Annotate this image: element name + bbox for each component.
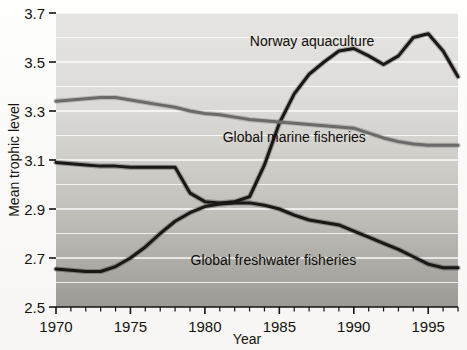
series-label-2: Global marine fisheries <box>223 129 366 145</box>
y-tick-label: 2.7 <box>24 250 45 267</box>
y-tick-label: 2.9 <box>24 201 45 218</box>
x-axis-title: Year <box>233 331 262 347</box>
y-tick-label: 3.1 <box>24 152 45 169</box>
x-tick-label: 1995 <box>412 318 445 335</box>
series-label-1: Norway aquaculture <box>250 33 375 49</box>
mean-trophic-level-line-chart: 2.52.72.93.13.33.53.7 197019751980198519… <box>0 0 467 350</box>
x-tick-label: 1980 <box>188 318 221 335</box>
y-tick-label: 3.5 <box>24 54 45 71</box>
x-tick-label: 1990 <box>337 318 370 335</box>
series-label-3: Global freshwater fisheries <box>191 252 357 268</box>
x-tick-label: 1970 <box>39 318 72 335</box>
x-tick-label: 1985 <box>263 318 296 335</box>
y-tick-label: 3.7 <box>24 5 45 22</box>
chart-figure: 2.52.72.93.13.33.53.7 197019751980198519… <box>0 0 467 350</box>
y-tick-label: 3.3 <box>24 103 45 120</box>
x-tick-label: 1975 <box>114 318 147 335</box>
y-axis-title: Mean trophic level <box>6 103 22 217</box>
y-tick-label: 2.5 <box>24 299 45 316</box>
